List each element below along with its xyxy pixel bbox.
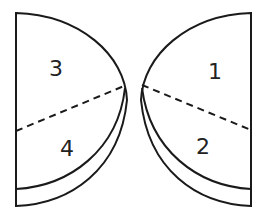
right-half-disc: [141, 13, 251, 206]
region-label-3: 3: [49, 56, 63, 81]
diagram-canvas: 3 4 1 2: [0, 0, 273, 224]
left-half-disc: [16, 13, 127, 206]
region-label-4: 4: [60, 136, 74, 161]
region-label-1: 1: [208, 59, 222, 84]
region-label-2: 2: [196, 134, 210, 159]
left-dashed-divider: [16, 86, 124, 131]
left-outline: [16, 13, 127, 206]
right-dashed-divider: [142, 85, 251, 130]
right-outline: [141, 13, 251, 206]
diagram-svg: 3 4 1 2: [0, 0, 273, 224]
